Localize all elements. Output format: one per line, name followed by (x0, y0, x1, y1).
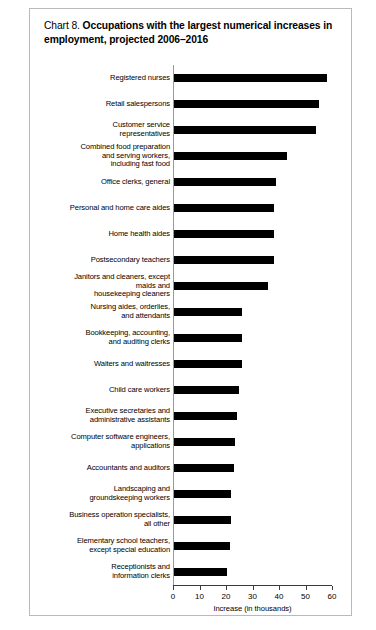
x-axis-tick (173, 586, 174, 590)
chart-title: Chart 8. Occupations with the largest nu… (44, 19, 340, 47)
bar (173, 568, 227, 576)
bar-category-label: Nursing aides, orderlies, and attendants (35, 303, 170, 320)
x-axis-tick-label: 20 (214, 592, 238, 601)
x-axis-title: Increase (in thousands) (173, 604, 332, 613)
x-axis-tick (226, 586, 227, 590)
bar-row: Customer service representatives (30, 117, 351, 143)
bar (173, 308, 242, 316)
bar-category-label: Home health aides (35, 230, 170, 239)
bar-row: Landscaping and groundskeeping workers (30, 481, 351, 507)
bar-category-label: Receptionists and information clerks (35, 563, 170, 580)
bar (173, 204, 274, 212)
bar-category-label: Combined food preparation and serving wo… (35, 143, 170, 169)
bar-category-label: Child care workers (35, 386, 170, 395)
bar (173, 152, 287, 160)
bar-row: Retail salespersons (30, 91, 351, 117)
bar-row: Computer software engineers, application… (30, 429, 351, 455)
bar-row: Waiters and waitresses (30, 351, 351, 377)
bar-row: Personal and home care aides (30, 195, 351, 221)
bar (173, 412, 237, 420)
bar (173, 100, 319, 108)
chart-title-main: Occupations with the largest numerical i… (44, 20, 332, 45)
bar-category-label: Office clerks, general (35, 178, 170, 187)
y-axis-line (173, 65, 174, 585)
x-axis-tick-label: 50 (294, 592, 318, 601)
bar-row: Registered nurses (30, 65, 351, 91)
bar-category-label: Customer service representatives (35, 121, 170, 138)
bar (173, 360, 242, 368)
bar-category-label: Retail salespersons (35, 100, 170, 109)
bar (173, 74, 327, 82)
bar-category-label: Bookkeeping, accounting, and auditing cl… (35, 329, 170, 346)
bar-category-label: Registered nurses (35, 74, 170, 83)
bar (173, 334, 242, 342)
x-axis-tick-label: 60 (320, 592, 344, 601)
x-axis-tick-label: 0 (161, 592, 185, 601)
bar-row: Business operation specialists, all othe… (30, 507, 351, 533)
chart-figure: Chart 8. Occupations with the largest nu… (29, 8, 352, 616)
bar-row: Child care workers (30, 377, 351, 403)
bar-row: Nursing aides, orderlies, and attendants (30, 299, 351, 325)
bar-row: Postsecondary teachers (30, 247, 351, 273)
x-axis-tick-label: 30 (241, 592, 265, 601)
bar-row: Bookkeeping, accounting, and auditing cl… (30, 325, 351, 351)
bar (173, 126, 316, 134)
bar-category-label: Janitors and cleaners, except maids and … (35, 273, 170, 299)
bar-category-label: Executive secretaries and administrative… (35, 407, 170, 424)
x-axis-tick (306, 586, 307, 590)
x-axis-tick (332, 586, 333, 590)
x-axis-tick (253, 586, 254, 590)
bar-row: Accountants and auditors (30, 455, 351, 481)
bar-category-label: Accountants and auditors (35, 464, 170, 473)
bar-row: Janitors and cleaners, except maids and … (30, 273, 351, 299)
bar (173, 230, 274, 238)
x-axis-tick-label: 40 (267, 592, 291, 601)
x-axis-tick-label: 10 (188, 592, 212, 601)
bar (173, 178, 276, 186)
bar-category-label: Postsecondary teachers (35, 256, 170, 265)
bar (173, 464, 234, 472)
bar-row: Receptionists and information clerks (30, 559, 351, 585)
bar (173, 490, 231, 498)
x-axis-tick (200, 586, 201, 590)
x-axis-tick (279, 586, 280, 590)
chart-title-prefix: Chart 8. (44, 20, 80, 31)
bar-row: Combined food preparation and serving wo… (30, 143, 351, 169)
bar-row: Home health aides (30, 221, 351, 247)
bar-category-label: Landscaping and groundskeeping workers (35, 485, 170, 502)
bar (173, 282, 268, 290)
bar-category-label: Business operation specialists, all othe… (35, 511, 170, 528)
bar (173, 542, 230, 550)
bar-row: Office clerks, general (30, 169, 351, 195)
bar (173, 438, 235, 446)
bar (173, 516, 231, 524)
bar-category-label: Personal and home care aides (35, 204, 170, 213)
bar-category-label: Waiters and waitresses (35, 360, 170, 369)
plot-area: Registered nursesRetail salespersonsCust… (30, 65, 351, 585)
bar-row: Elementary school teachers, except speci… (30, 533, 351, 559)
bar (173, 386, 239, 394)
bar-category-label: Computer software engineers, application… (35, 433, 170, 450)
bar-row: Executive secretaries and administrative… (30, 403, 351, 429)
bar (173, 256, 274, 264)
bar-category-label: Elementary school teachers, except speci… (35, 537, 170, 554)
